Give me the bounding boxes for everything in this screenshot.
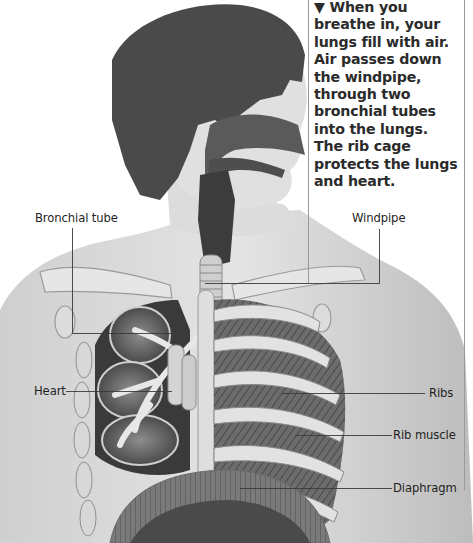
label-ribs: Ribs	[429, 386, 453, 400]
respiratory-diagram: ▼ When you breathe in, your lungs fill w…	[0, 0, 473, 543]
caption-line-11: and heart.	[314, 173, 395, 189]
caption-line-9: The rib cage	[314, 138, 411, 154]
caption-line-2: breathe in, your	[314, 16, 440, 32]
caption-line-10: protects the lungs	[314, 156, 457, 172]
caption-line-4: Air passes down	[314, 51, 442, 67]
lung-cutaway	[95, 300, 205, 475]
label-bronchial-tube: Bronchial tube	[35, 211, 118, 225]
caption-line-5: the windpipe,	[314, 69, 421, 85]
caption-line-7: bronchial tubes	[314, 103, 436, 119]
label-heart: Heart	[34, 384, 66, 398]
caption-line-8: into the lungs.	[314, 121, 428, 137]
triangle-down-icon: ▼	[314, 0, 325, 15]
caption-line-1: When you	[329, 0, 407, 15]
label-windpipe: Windpipe	[352, 211, 405, 225]
label-diaphragm: Diaphragm	[393, 481, 457, 495]
caption-line-6: through two	[314, 86, 410, 102]
caption-text: ▼ When you breathe in, your lungs fill w…	[314, 0, 464, 190]
sternum	[198, 290, 214, 500]
label-rib-muscle: Rib muscle	[393, 428, 456, 442]
caption-line-3: lungs fill with air.	[314, 34, 449, 50]
